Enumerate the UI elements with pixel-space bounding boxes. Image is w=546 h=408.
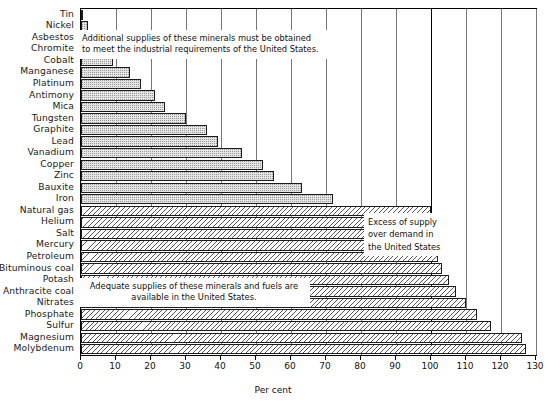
category-label-salt: Salt bbox=[56, 228, 74, 237]
x-tick-label-0: 0 bbox=[77, 361, 83, 371]
x-tick-label-120: 120 bbox=[491, 361, 508, 371]
x-tick-10 bbox=[115, 355, 116, 360]
x-axis-title: Per cent bbox=[0, 385, 546, 395]
bar-graphite bbox=[81, 125, 207, 135]
bar-bituminous-coal bbox=[81, 263, 442, 273]
category-label-chromite: Chromite bbox=[31, 43, 74, 52]
bar-iron bbox=[81, 194, 333, 204]
x-tick-label-10: 10 bbox=[109, 361, 120, 371]
x-axis: 0102030405060708090100110120130 bbox=[80, 355, 537, 385]
bar-vanadium bbox=[81, 148, 242, 158]
category-label-helium: Helium bbox=[41, 216, 74, 225]
chart-figure: TinNickelAsbestosChromiteCobaltManganese… bbox=[0, 0, 546, 408]
x-tick-60 bbox=[290, 355, 291, 360]
bar-manganese bbox=[81, 67, 130, 77]
x-tick-90 bbox=[395, 355, 396, 360]
category-label-cobalt: Cobalt bbox=[44, 55, 74, 64]
category-label-zinc: Zinc bbox=[54, 170, 74, 179]
category-label-mica: Mica bbox=[52, 101, 74, 110]
category-label-tin: Tin bbox=[60, 9, 74, 18]
bar-antimony bbox=[81, 90, 155, 100]
x-tick-label-130: 130 bbox=[526, 361, 543, 371]
category-label-bituminous-coal: Bituminous coal bbox=[0, 263, 74, 272]
x-tick-40 bbox=[220, 355, 221, 360]
category-label-molybdenum: Molybdenum bbox=[14, 343, 74, 352]
x-tick-label-80: 80 bbox=[354, 361, 365, 371]
bar-tungsten bbox=[81, 113, 186, 123]
bar-platinum bbox=[81, 79, 141, 89]
category-label-lead: Lead bbox=[52, 136, 74, 145]
bar-magnesium bbox=[81, 333, 522, 343]
bar-tin bbox=[81, 10, 83, 20]
category-label-mercury: Mercury bbox=[36, 239, 74, 248]
x-tick-110 bbox=[465, 355, 466, 360]
bar-bauxite bbox=[81, 183, 302, 193]
x-tick-120 bbox=[500, 355, 501, 360]
category-label-petroleum: Petroleum bbox=[26, 251, 74, 260]
bar-lead bbox=[81, 136, 218, 146]
annotation-excess-of-supply: Excess of supply over demand in the Unit… bbox=[364, 213, 456, 256]
category-label-anthracite-coal: Anthracite coal bbox=[3, 286, 74, 295]
annotation-adequate-supplies: Adequate supplies of these minerals and … bbox=[78, 278, 310, 307]
category-label-sulfur: Sulfur bbox=[46, 320, 74, 329]
bar-sulfur bbox=[81, 321, 491, 331]
bar-molybdenum bbox=[81, 344, 526, 354]
category-label-tungsten: Tungsten bbox=[32, 113, 74, 122]
x-tick-label-70: 70 bbox=[319, 361, 330, 371]
bar-mica bbox=[81, 102, 165, 112]
x-tick-label-60: 60 bbox=[284, 361, 295, 371]
category-label-manganese: Manganese bbox=[20, 66, 74, 75]
category-label-nickel: Nickel bbox=[46, 20, 74, 29]
category-label-potash: Potash bbox=[43, 274, 74, 283]
category-label-iron: Iron bbox=[56, 193, 74, 202]
x-tick-100 bbox=[430, 355, 431, 360]
bar-copper bbox=[81, 160, 263, 170]
category-label-vanadium: Vanadium bbox=[27, 147, 74, 156]
annotation-additional-supplies: Additional supplies of these minerals mu… bbox=[78, 30, 338, 59]
x-tick-label-110: 110 bbox=[456, 361, 473, 371]
x-tick-20 bbox=[150, 355, 151, 360]
x-tick-label-30: 30 bbox=[179, 361, 190, 371]
x-tick-80 bbox=[360, 355, 361, 360]
category-label-asbestos: Asbestos bbox=[32, 32, 74, 41]
category-label-nitrates: Nitrates bbox=[37, 297, 74, 306]
x-tick-130 bbox=[535, 355, 536, 360]
category-axis-labels: TinNickelAsbestosChromiteCobaltManganese… bbox=[0, 8, 78, 354]
category-label-antimony: Antimony bbox=[29, 90, 74, 99]
category-label-magnesium: Magnesium bbox=[20, 332, 74, 341]
x-tick-70 bbox=[325, 355, 326, 360]
x-tick-label-90: 90 bbox=[389, 361, 400, 371]
category-label-copper: Copper bbox=[40, 159, 74, 168]
x-tick-label-40: 40 bbox=[214, 361, 225, 371]
category-label-phosphate: Phosphate bbox=[25, 309, 74, 318]
x-tick-label-20: 20 bbox=[144, 361, 155, 371]
x-tick-label-100: 100 bbox=[421, 361, 438, 371]
category-label-bauxite: Bauxite bbox=[38, 182, 74, 191]
category-label-graphite: Graphite bbox=[33, 124, 74, 133]
bar-phosphate bbox=[81, 309, 477, 319]
x-tick-0 bbox=[80, 355, 81, 360]
x-tick-label-50: 50 bbox=[249, 361, 260, 371]
x-tick-50 bbox=[255, 355, 256, 360]
category-label-platinum: Platinum bbox=[33, 78, 74, 87]
x-tick-30 bbox=[185, 355, 186, 360]
category-label-natural-gas: Natural gas bbox=[20, 205, 74, 214]
bar-zinc bbox=[81, 171, 274, 181]
